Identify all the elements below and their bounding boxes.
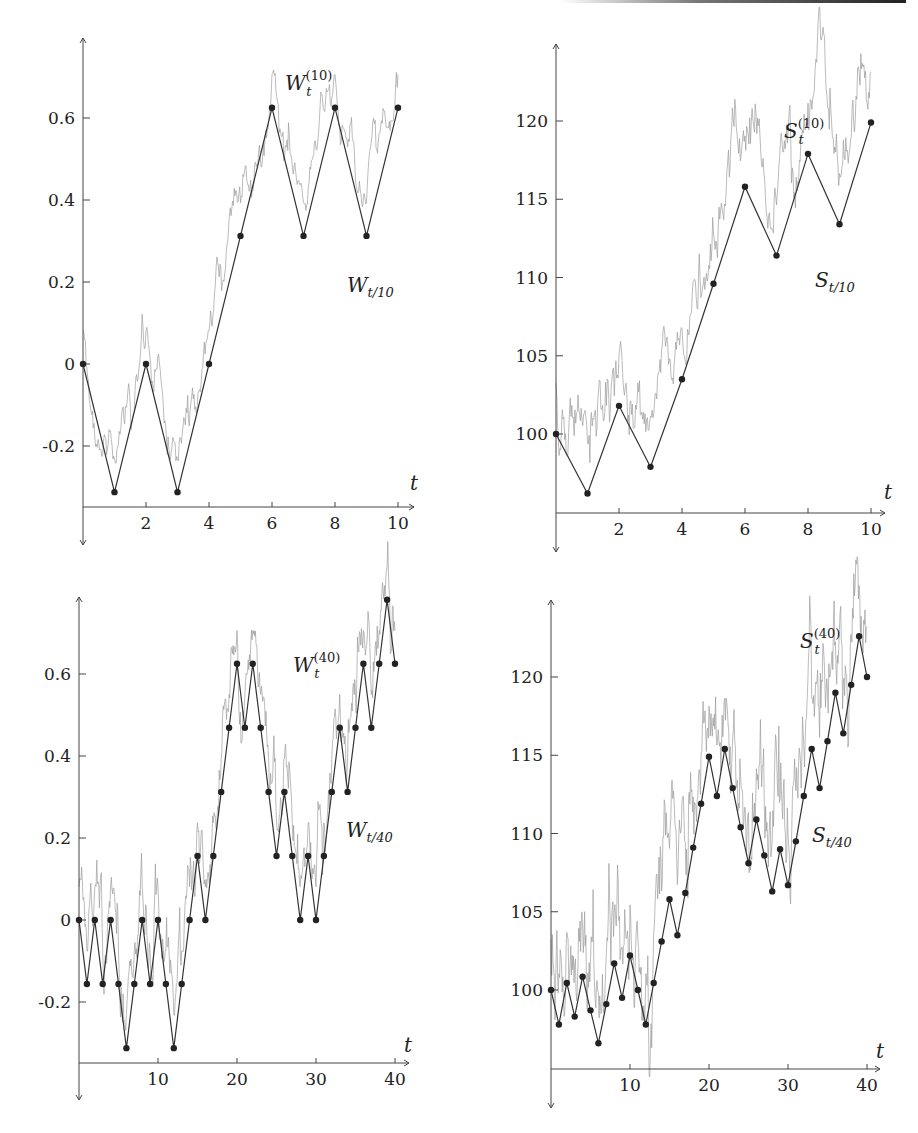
y-tick-label: 110 [511, 824, 543, 844]
data-point-marker [658, 938, 664, 944]
data-point-marker [250, 661, 256, 667]
chart-bottom-right-stock-40: 10203040100105110115120S(40)tSt/40t [511, 557, 885, 1108]
data-point-marker [321, 853, 327, 859]
data-point-marker [332, 105, 338, 111]
data-point-marker [269, 105, 275, 111]
data-point-marker [281, 789, 287, 795]
y-tick-label: 0 [60, 910, 71, 930]
data-point-marker [619, 995, 625, 1001]
data-point-marker [242, 725, 248, 731]
x-tick-label: 2 [141, 513, 152, 533]
data-point-marker [210, 853, 216, 859]
data-point-marker [698, 801, 704, 807]
data-point-marker [643, 1021, 649, 1027]
data-point-marker [579, 973, 585, 979]
data-point-marker [553, 431, 559, 437]
data-point-marker [115, 981, 121, 987]
data-point-marker [363, 233, 369, 239]
x-tick-label: 2 [614, 519, 625, 539]
data-point-marker [273, 853, 279, 859]
data-point-marker [674, 932, 680, 938]
data-point-marker [742, 184, 748, 190]
figure-canvas: 246810-0.200.20.40.6W(10)tWt/10t 2468101… [0, 0, 918, 1133]
data-point-marker [647, 464, 653, 470]
y-tick-label: 100 [516, 424, 548, 444]
data-point-marker [100, 981, 106, 987]
series-label-continuous: St/10 [815, 268, 855, 295]
data-point-marker [737, 824, 743, 830]
y-tick-label: 120 [511, 667, 543, 687]
data-point-marker [206, 361, 212, 367]
y-tick-label: 115 [516, 189, 548, 209]
data-point-marker [706, 754, 712, 760]
data-point-marker [80, 361, 86, 367]
data-point-marker [840, 730, 846, 736]
data-point-marker [682, 890, 688, 896]
series-label-discrete: W(10)t [285, 68, 332, 99]
data-point-marker [76, 917, 82, 923]
data-point-marker [344, 789, 350, 795]
y-tick-label: 0.4 [44, 746, 71, 766]
data-point-marker [603, 1001, 609, 1007]
data-point-marker [773, 252, 779, 258]
data-point-marker [793, 838, 799, 844]
data-point-marker [384, 597, 390, 603]
y-tick-label: 110 [516, 268, 548, 288]
y-tick-label: 0.2 [44, 828, 71, 848]
data-point-marker [572, 1013, 578, 1019]
data-point-marker [258, 725, 264, 731]
y-tick-label: -0.2 [42, 436, 75, 456]
data-point-marker [111, 489, 117, 495]
data-point-marker [171, 1045, 177, 1051]
y-tick-label: 0.4 [48, 190, 75, 210]
data-point-marker [376, 661, 382, 667]
x-tick-label: 40 [856, 1075, 878, 1095]
continuous-path-gray [83, 70, 398, 463]
chart-top-right-stock-10: 246810100105110115120S(10)tSt/10t [516, 7, 893, 552]
data-point-marker [548, 987, 554, 993]
series-label-discrete: S(10)t [784, 116, 824, 147]
data-point-marker [84, 981, 90, 987]
data-point-marker [202, 917, 208, 923]
y-tick-label: 0.2 [48, 272, 75, 292]
data-point-marker [92, 917, 98, 923]
data-point-marker [237, 233, 243, 239]
data-point-marker [556, 1021, 562, 1027]
data-point-marker [289, 853, 295, 859]
data-point-marker [710, 281, 716, 287]
y-tick-label: 105 [511, 902, 543, 922]
data-point-marker [730, 785, 736, 791]
data-point-marker [218, 789, 224, 795]
x-tick-label: 6 [740, 519, 751, 539]
data-point-marker [627, 952, 633, 958]
x-axis-label-t: t [410, 471, 419, 495]
data-point-marker [313, 917, 319, 923]
x-tick-label: 30 [305, 1069, 327, 1089]
data-point-marker [611, 960, 617, 966]
data-point-marker [186, 917, 192, 923]
data-point-marker [392, 661, 398, 667]
data-point-marker [360, 661, 366, 667]
data-point-marker [864, 674, 870, 680]
discrete-approximation-line [83, 108, 398, 492]
data-point-marker [179, 981, 185, 987]
x-tick-label: 6 [267, 513, 278, 533]
data-point-marker [777, 846, 783, 852]
data-point-marker [635, 987, 641, 993]
data-point-marker [805, 151, 811, 157]
x-tick-label: 10 [619, 1075, 641, 1095]
data-point-marker [836, 221, 842, 227]
data-point-marker [123, 1045, 129, 1051]
data-point-marker [147, 981, 153, 987]
y-tick-label: 105 [516, 346, 548, 366]
series-label-continuous: Wt/40 [346, 818, 393, 845]
data-point-marker [107, 917, 113, 923]
discrete-approximation-line [556, 123, 871, 494]
x-tick-label: 8 [330, 513, 341, 533]
y-tick-label: 0.6 [48, 108, 75, 128]
continuous-path-gray [79, 542, 395, 1031]
data-point-marker [352, 725, 358, 731]
chart-bottom-left-wiener-40: 10203040-0.200.20.40.6W(40)tWt/40t [38, 542, 413, 1101]
data-point-marker [651, 980, 657, 986]
x-tick-label: 10 [147, 1069, 169, 1089]
